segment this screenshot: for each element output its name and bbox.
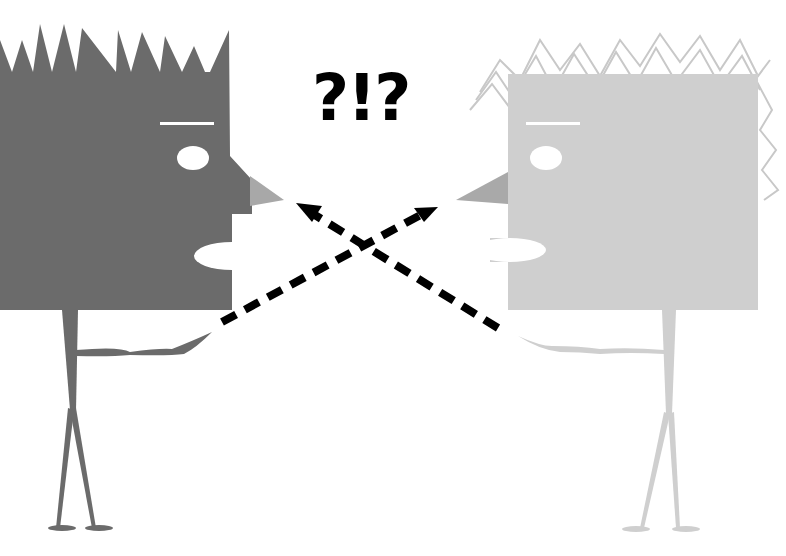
right-nose bbox=[456, 172, 508, 204]
left-nose bbox=[250, 176, 284, 206]
left-leg-1 bbox=[56, 408, 74, 528]
left-figure bbox=[0, 24, 284, 531]
left-foot-1 bbox=[48, 525, 76, 531]
right-foot-1 bbox=[622, 526, 650, 532]
right-body bbox=[662, 310, 676, 414]
right-figure bbox=[456, 34, 778, 532]
right-foot-2 bbox=[672, 526, 700, 532]
right-eyebrow bbox=[526, 122, 580, 125]
right-arm bbox=[518, 336, 664, 354]
left-arm bbox=[76, 332, 212, 356]
left-eye bbox=[177, 146, 209, 170]
right-leg-1 bbox=[640, 412, 670, 528]
left-foot-2 bbox=[85, 525, 113, 531]
right-eye bbox=[530, 146, 562, 170]
dashed-arrows bbox=[222, 203, 498, 328]
arrow-right-to-left bbox=[310, 212, 498, 328]
left-eyebrow bbox=[160, 122, 214, 125]
left-body bbox=[62, 310, 78, 410]
exclamation-text: ?!? bbox=[312, 66, 409, 130]
right-head bbox=[488, 74, 758, 310]
right-leg-2 bbox=[668, 412, 680, 528]
left-leg-2 bbox=[70, 408, 96, 528]
left-mouth bbox=[194, 242, 270, 270]
right-mouth bbox=[474, 238, 546, 262]
